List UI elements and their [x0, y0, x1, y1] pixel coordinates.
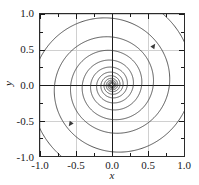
x-tick-label-1: -1.0 — [20, 160, 60, 171]
plot-area — [39, 13, 185, 157]
x-tick-label-4: 0.5 — [128, 160, 168, 171]
flow-arrow-1 — [150, 42, 157, 49]
axis-lines — [40, 14, 184, 156]
x-tick-label-2: -0.5 — [56, 160, 96, 171]
y-tick-label-2: 0.5 — [0, 44, 34, 55]
x-tick-label-5: 1.0 — [164, 160, 199, 171]
y-tick-label-1: 1.0 — [0, 8, 34, 19]
phase-portrait-figure: 1.0 0.5 0.0 -0.5 -1.0 -1.0 -0.5 0.0 0.5 … — [0, 0, 199, 185]
spiral-plot-svg — [40, 14, 184, 156]
y-axis-title: y — [3, 64, 14, 104]
y-tick-label-4: -0.5 — [0, 116, 34, 127]
x-axis-title: x — [92, 170, 132, 181]
